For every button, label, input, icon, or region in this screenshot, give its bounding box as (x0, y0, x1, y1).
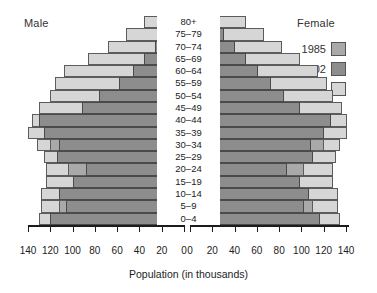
age-group-label: 0–4 (157, 213, 220, 225)
x-tick (346, 227, 347, 232)
age-group-label: 75–79 (157, 28, 220, 40)
x-tick-label: 80 (83, 245, 107, 256)
x-tick (28, 227, 29, 232)
x-tick (212, 227, 213, 232)
age-group-label: 30–34 (157, 139, 220, 151)
x-tick (190, 227, 191, 232)
x-tick-label: 40 (127, 245, 151, 256)
age-group-label: 20–24 (157, 163, 220, 175)
x-tick (95, 227, 96, 232)
x-tick (184, 227, 185, 232)
age-group-label: 55–59 (157, 77, 220, 89)
x-tick-label: 20 (150, 245, 174, 256)
age-group-label: 70–74 (157, 41, 220, 53)
age-group-label: 5–9 (157, 200, 220, 212)
age-group-label: 65–69 (157, 53, 220, 65)
x-tick (162, 227, 163, 232)
x-tick (117, 227, 118, 232)
x-tick-label: 40 (223, 245, 247, 256)
x-tick-label: 0 (178, 245, 202, 256)
age-group-axis: 80+75–7970–7465–6960–6455–5950–5445–4940… (157, 16, 220, 225)
age-group-label: 45–49 (157, 102, 220, 114)
age-group-label: 50–54 (157, 90, 220, 102)
age-group-label: 40–44 (157, 114, 220, 126)
age-group-label: 10–14 (157, 188, 220, 200)
right-baseline (190, 225, 349, 227)
x-tick-label: 100 (61, 245, 85, 256)
x-tick-label: 60 (105, 245, 129, 256)
x-tick (324, 227, 325, 232)
x-tick (257, 227, 258, 232)
x-tick-label: 140 (16, 245, 40, 256)
age-group-label: 25–29 (157, 151, 220, 163)
x-tick-label: 100 (289, 245, 313, 256)
x-axis-label: Population (in thousands) (0, 268, 377, 280)
x-tick (50, 227, 51, 232)
age-group-label: 80+ (157, 16, 220, 28)
x-tick-label: 20 (200, 245, 224, 256)
x-tick-label: 120 (38, 245, 62, 256)
x-tick (139, 227, 140, 232)
age-group-label: 35–39 (157, 127, 220, 139)
x-tick (235, 227, 236, 232)
x-tick-label: 80 (267, 245, 291, 256)
population-pyramid-chart: Male Female 198520022025 80+75–7970–7465… (0, 0, 377, 293)
x-tick-label: 60 (245, 245, 269, 256)
x-tick (73, 227, 74, 232)
x-tick-label: 120 (312, 245, 336, 256)
x-tick (301, 227, 302, 232)
age-group-label: 15–19 (157, 176, 220, 188)
age-group-label: 60–64 (157, 65, 220, 77)
x-tick (279, 227, 280, 232)
x-tick-label: 140 (334, 245, 358, 256)
